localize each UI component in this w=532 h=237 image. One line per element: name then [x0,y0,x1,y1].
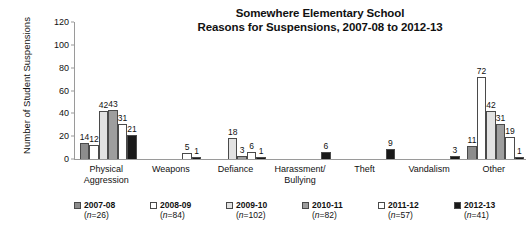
bar-value-label: 1 [517,147,522,156]
bar-slot [376,22,386,159]
bar[interactable] [515,157,525,160]
x-tick-label: Defiance [203,164,268,175]
bar-value-label: 5 [185,143,190,152]
suspensions-bar-chart: Somewhere Elementary School Reasons for … [0,0,532,237]
legend-series-count: (n=84) [160,210,191,220]
y-tick-label: 0 [64,155,69,164]
chart-legend: 2007-08(n=26)2008-09(n=84)2009-10(n=102)… [74,200,526,230]
bar-value-label: 1 [194,147,199,156]
legend-item[interactable]: 2007-08(n=26) [74,200,150,230]
bar-slot: 12 [89,22,99,159]
bar-group: 11724231191 [467,22,524,159]
bar[interactable] [386,149,396,159]
x-tick-label-line: Theft [332,164,397,175]
bar-slot: 19 [505,22,515,159]
legend-item[interactable]: 2009-10(n=102) [226,200,302,230]
bar-slot [144,22,154,159]
bar-group-bars: 6 [274,22,331,159]
bar-value-label: 18 [228,128,237,137]
bar-value-label: 11 [468,136,477,145]
bar-group-bars: 141242433121 [80,22,137,159]
bar-slot: 6 [247,22,257,159]
bar[interactable] [450,156,460,159]
y-tick-label: 80 [59,63,69,72]
bar[interactable] [237,156,247,159]
bar-slot: 9 [386,22,396,159]
bar-slot: 5 [182,22,192,159]
bar[interactable] [127,135,137,159]
y-axis-label: Number of Student Suspensions [21,11,32,161]
bar-slot [283,22,293,159]
y-tick-mark [71,67,74,68]
bar[interactable] [118,124,128,159]
legend-swatch [378,202,385,209]
bar-value-label: 43 [108,100,117,109]
y-axis-line [74,22,75,160]
bar-slot: 3 [237,22,247,159]
y-tick-mark [71,159,74,160]
bar-value-label: 9 [388,139,393,148]
bar-slot: 14 [80,22,90,159]
bar-slot [367,22,377,159]
legend-series-name: 2008-09 [160,200,191,210]
bar[interactable] [486,111,496,159]
bar[interactable] [496,124,506,159]
bar-value-label: 31 [496,114,505,123]
bar-slot: 42 [99,22,109,159]
bar[interactable] [467,146,477,159]
y-tick-label: 20 [59,132,69,141]
legend-series-count: (n=41) [464,210,495,220]
bar-value-label: 42 [99,101,108,110]
bar-slot [431,22,441,159]
x-tick-label-line: Physical [74,164,139,175]
legend-series-name: 2010-11 [312,200,343,210]
x-tick-label-line: Weapons [139,164,204,175]
legend-item[interactable]: 2012-13(n=41) [454,200,530,230]
bar[interactable] [89,145,99,159]
bar[interactable] [80,143,90,159]
legend-item[interactable]: 2008-09(n=84) [150,200,226,230]
bar-slot [338,22,348,159]
bar-slot: 43 [108,22,118,159]
bar[interactable] [228,138,238,159]
bar-slot [403,22,413,159]
x-tick-label-line: Vandalism [397,164,462,175]
legend-item[interactable]: 2011-12(n=57) [378,200,454,230]
bar-group: 9 [338,22,395,159]
bar-slot [293,22,303,159]
bar-group-bars: 18361 [209,22,266,159]
bar[interactable] [192,157,202,160]
legend-series-name: 2007-08 [84,200,115,210]
x-axis-tick-labels: PhysicalAggressionWeaponsDefianceHarassm… [74,164,526,190]
bar[interactable] [108,110,118,159]
bar[interactable] [321,152,331,159]
y-tick-mark [71,22,74,23]
legend-label: 2007-08(n=26) [84,200,115,220]
bar-group-bars: 9 [338,22,395,159]
bar[interactable] [99,111,109,159]
legend-swatch [302,202,309,209]
bar[interactable] [182,153,192,159]
y-tick-label: 60 [59,86,69,95]
y-tick-mark [71,44,74,45]
bar-slot [412,22,422,159]
bar[interactable] [247,152,257,159]
chart-title-line-1: Somewhere Elementary School [120,6,520,20]
bar[interactable] [477,77,487,159]
legend-label: 2011-12(n=57) [388,200,419,220]
bar-group: 3 [403,22,460,159]
bar[interactable] [256,157,266,160]
y-tick-mark [71,136,74,137]
bar-value-label: 6 [323,142,328,151]
legend-item[interactable]: 2010-11(n=82) [302,200,378,230]
y-tick-label: 120 [54,18,69,27]
y-tick-label: 100 [54,40,69,49]
x-tick-label: PhysicalAggression [74,164,139,185]
bar-slot [218,22,228,159]
y-tick-label: 40 [59,109,69,118]
x-tick-label: Weapons [139,164,204,175]
bar[interactable] [505,137,515,159]
bar-slot [441,22,451,159]
y-tick-mark [71,113,74,114]
legend-swatch [226,202,233,209]
